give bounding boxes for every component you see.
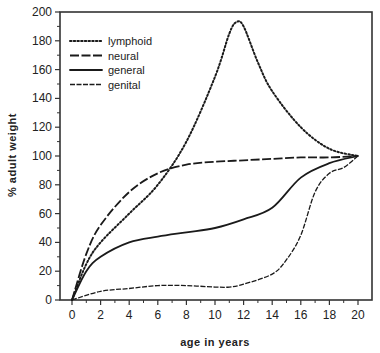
x-tick-label: 10 xyxy=(208,308,222,322)
legend-label-lymphoid: lymphoid xyxy=(108,35,152,47)
y-tick-label: 120 xyxy=(32,120,52,134)
legend-label-neural: neural xyxy=(108,50,139,62)
legend-label-general: general xyxy=(108,64,145,76)
data-lines xyxy=(72,21,358,300)
y-tick-label: 40 xyxy=(39,235,53,249)
y-tick-label: 100 xyxy=(32,149,52,163)
x-tick-label: 6 xyxy=(154,308,161,322)
x-tick-label: 12 xyxy=(237,308,251,322)
growth-curves-chart: 020406080100120140160180200 024681012141… xyxy=(0,0,380,353)
x-tick-label: 4 xyxy=(126,308,133,322)
y-tick-label: 200 xyxy=(32,5,52,19)
y-tick-label: 0 xyxy=(45,293,52,307)
x-axis-label: age in years xyxy=(180,336,250,348)
y-tick-label: 80 xyxy=(39,178,53,192)
x-tick-label: 2 xyxy=(97,308,104,322)
y-tick-label: 160 xyxy=(32,63,52,77)
x-tick-label: 8 xyxy=(183,308,190,322)
y-axis-label: % adult weight xyxy=(6,113,18,197)
x-tick-label: 18 xyxy=(323,308,337,322)
legend-label-genital: genital xyxy=(108,79,140,91)
legend: lymphoidneuralgeneralgenital xyxy=(70,35,152,91)
x-tick-label: 20 xyxy=(351,308,365,322)
y-axis: 020406080100120140160180200 xyxy=(32,5,60,307)
y-tick-label: 60 xyxy=(39,207,53,221)
y-tick-label: 180 xyxy=(32,34,52,48)
x-tick-label: 0 xyxy=(69,308,76,322)
series-lymphoid-line xyxy=(72,21,358,300)
x-axis: 02468101214161820 xyxy=(69,300,365,322)
plot-frame xyxy=(60,12,372,300)
y-tick-label: 20 xyxy=(39,264,53,278)
plot-border xyxy=(60,12,372,300)
x-tick-label: 16 xyxy=(294,308,308,322)
y-tick-label: 140 xyxy=(32,91,52,105)
x-tick-label: 14 xyxy=(266,308,280,322)
